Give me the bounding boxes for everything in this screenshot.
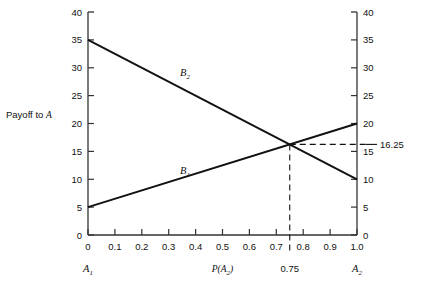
y-tick-label-right-0: 0 <box>363 230 368 241</box>
x-axis-title-close: ) <box>229 264 233 275</box>
y-tick-label-right-20: 20 <box>363 118 374 129</box>
strategy-label-a2-sub: 2 <box>358 269 362 277</box>
y-tick-label-left-30: 30 <box>71 62 82 73</box>
intersection-y-annotation: 16.25 <box>380 139 404 150</box>
y-tick-label-left-40: 40 <box>71 7 82 18</box>
x-tick-label-08: 0.8 <box>297 241 310 252</box>
strategy-label-a1: A1 <box>82 263 93 277</box>
series-label-b2: B2 <box>180 67 190 81</box>
x-axis-ticks <box>88 229 357 235</box>
x-tick-label-04: 0.4 <box>189 241 202 252</box>
x-tick-label-05: 0.5 <box>216 241 229 252</box>
series-label-b2-sub: 2 <box>186 73 190 81</box>
y-tick-label-left-0: 0 <box>77 230 82 241</box>
series-line-b1 <box>88 124 357 208</box>
y-axis-title-text: Payoff to <box>6 109 46 120</box>
chart-figure: 0 5 10 15 20 25 30 35 40 0 5 10 15 20 25… <box>0 0 425 283</box>
intersection-guides <box>290 144 366 253</box>
strategy-label-a2: A2 <box>351 263 362 277</box>
y-tick-label-left-10: 10 <box>71 174 82 185</box>
y-tick-label-right-10: 10 <box>363 174 374 185</box>
y-tick-label-left-20: 20 <box>71 118 82 129</box>
chart-svg: 0 5 10 15 20 25 30 35 40 0 5 10 15 20 25… <box>0 0 425 283</box>
series-label-b1-sub: 1 <box>186 171 190 179</box>
x-tick-label-06: 0.6 <box>243 241 256 252</box>
y-tick-label-left-15: 15 <box>71 146 82 157</box>
y-axis-title: Payoff to A <box>6 109 52 120</box>
y-tick-label-right-35: 35 <box>363 34 374 45</box>
x-tick-label-01: 0.1 <box>108 241 121 252</box>
axis-lines <box>88 12 357 235</box>
y-tick-label-right-40: 40 <box>363 7 374 18</box>
y-tick-label-left-25: 25 <box>71 90 82 101</box>
x-tick-label-07: 0.7 <box>270 241 283 252</box>
x-tick-label-0: 0 <box>85 241 90 252</box>
x-axis-title: P(A2) <box>211 264 233 277</box>
strategy-label-a1-sub: 1 <box>89 269 93 277</box>
x-tick-label-09: 0.9 <box>323 241 336 252</box>
x-tick-label-10: 1.0 <box>350 241 363 252</box>
x-tick-label-02: 0.2 <box>135 241 148 252</box>
y-tick-label-left-5: 5 <box>77 202 82 213</box>
y-tick-label-right-5: 5 <box>363 202 368 213</box>
intersection-x-annotation: 0.75 <box>281 263 300 274</box>
x-axis-title-base: P(A <box>211 264 227 275</box>
y-tick-label-right-25: 25 <box>363 90 374 101</box>
y-tick-label-left-35: 35 <box>71 34 82 45</box>
y-tick-label-right-30: 30 <box>363 62 374 73</box>
right-axis-ticks <box>351 40 357 235</box>
y-axis-title-player: A <box>45 110 52 120</box>
y-tick-label-right-15: 15 <box>363 146 374 157</box>
series-line-b2 <box>88 40 357 179</box>
x-tick-label-03: 0.3 <box>162 241 175 252</box>
